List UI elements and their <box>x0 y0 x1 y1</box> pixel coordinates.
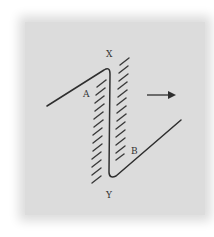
arrow-right-icon <box>147 91 176 99</box>
diagram-canvas: X A B Y <box>0 0 214 237</box>
label-x: X <box>106 49 113 59</box>
right-hatch-column <box>116 58 129 160</box>
label-a: A <box>82 89 90 99</box>
label-b: B <box>131 146 138 156</box>
left-hatch-column <box>92 80 106 183</box>
fault-fold-diagram: X A B Y <box>0 0 214 237</box>
fold-line <box>47 69 181 177</box>
label-y: Y <box>105 190 113 200</box>
